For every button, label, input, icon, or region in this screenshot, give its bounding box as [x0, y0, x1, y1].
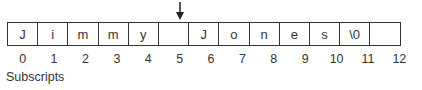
- subscript: 3: [101, 52, 132, 66]
- array-cell: \0: [340, 23, 370, 45]
- array-cell: n: [250, 23, 280, 45]
- array-cell: y: [129, 23, 159, 45]
- subscript: 1: [38, 52, 69, 66]
- subscript: 4: [133, 52, 164, 66]
- array-cell: [159, 23, 189, 45]
- down-arrow-icon: [175, 2, 185, 20]
- subscript: 9: [290, 52, 321, 66]
- subscripts-label: Subscripts: [6, 70, 64, 84]
- subscript: 5: [164, 52, 195, 66]
- array-cell: [370, 23, 400, 45]
- subscript: 6: [195, 52, 226, 66]
- subscript: 2: [70, 52, 101, 66]
- subscript: 10: [321, 52, 352, 66]
- char-array: J i m m y J o n e s \0: [7, 22, 401, 46]
- array-cell: J: [189, 23, 219, 45]
- array-cell: m: [68, 23, 98, 45]
- subscript: 12: [384, 52, 415, 66]
- array-cell: i: [38, 23, 68, 45]
- subscript: 11: [352, 52, 383, 66]
- subscript: 7: [227, 52, 258, 66]
- array-cell: J: [8, 23, 38, 45]
- subscript-row: 0 1 2 3 4 5 6 7 8 9 10 11 12: [7, 52, 415, 66]
- array-cell: s: [310, 23, 340, 45]
- array-cell: e: [280, 23, 310, 45]
- subscript: 0: [7, 52, 38, 66]
- array-cell: m: [99, 23, 129, 45]
- subscript: 8: [258, 52, 289, 66]
- array-cell: o: [219, 23, 249, 45]
